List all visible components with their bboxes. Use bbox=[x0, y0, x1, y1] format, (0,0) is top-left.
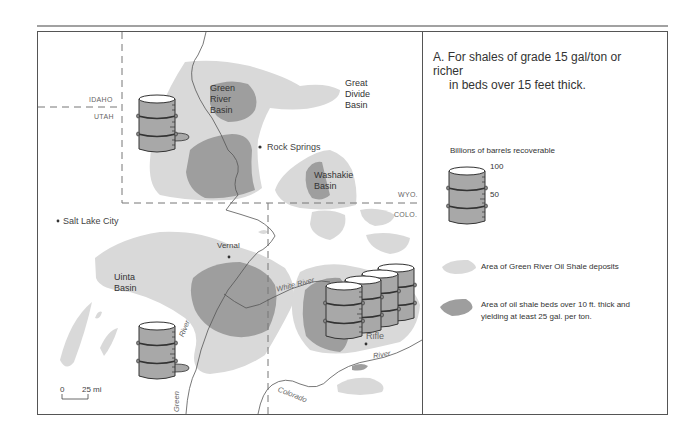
label-rifle: Rifle bbox=[366, 331, 384, 341]
label-great-divide-basin: Great Divide Basin bbox=[345, 78, 370, 111]
scale-distance: 25 mi bbox=[82, 385, 102, 395]
oil-shale-map-figure: IDAHO UTAH WYO. COLO. Green River Basin … bbox=[0, 0, 700, 440]
legend-dark-swatch bbox=[440, 299, 472, 316]
label-washakie-basin: Washakie Basin bbox=[314, 170, 353, 192]
legend-heading-prefix: A. bbox=[433, 50, 444, 64]
legend-barrel bbox=[447, 167, 488, 224]
legend-heading-line2: in beds over 15 feet thick. bbox=[433, 78, 653, 92]
label-utah: UTAH bbox=[94, 112, 114, 122]
label-salt-lake-city: Salt Lake City bbox=[63, 216, 119, 226]
label-colorado: COLO. bbox=[394, 210, 417, 220]
label-green-river-basin: Green River Basin bbox=[210, 83, 235, 116]
legend-tick-100: 100 bbox=[490, 161, 503, 173]
label-uinta-basin: Uinta Basin bbox=[114, 272, 137, 294]
legend-tick-50: 50 bbox=[490, 189, 499, 201]
legend-graphics bbox=[440, 167, 488, 316]
legend-barrel-caption: Billions of barrels recoverable bbox=[450, 145, 555, 157]
label-vernal: Vernal bbox=[217, 241, 240, 251]
legend-dark-area-text: Area of oil shale beds over 10 ft. thick… bbox=[481, 299, 630, 323]
label-green-river-lower: Green bbox=[172, 391, 182, 412]
label-rock-springs: Rock Springs bbox=[267, 142, 321, 152]
legend-light-area-text: Area of Green River Oil Shale deposits bbox=[481, 261, 619, 273]
legend-heading-line1: For shales of grade 15 gal/ton or richer bbox=[433, 50, 621, 78]
legend-light-swatch bbox=[442, 260, 476, 274]
scale-zero: 0 bbox=[60, 385, 64, 395]
label-wyoming: WYO. bbox=[398, 190, 418, 200]
legend-heading: A. For shales of grade 15 gal/ton or ric… bbox=[433, 50, 653, 92]
label-idaho: IDAHO bbox=[89, 95, 113, 105]
